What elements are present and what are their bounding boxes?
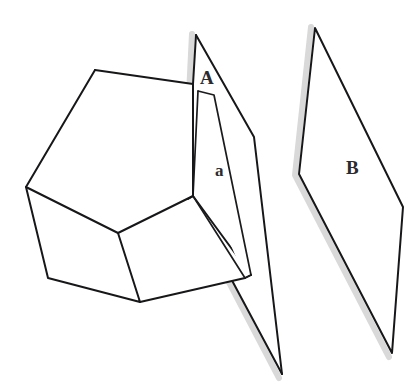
parallel-plane-b[interactable] xyxy=(299,28,403,353)
figure-canvas xyxy=(0,0,415,392)
label-plane-a: A xyxy=(200,68,214,87)
geometry-figure: A a B xyxy=(0,0,415,392)
plane-b-fill xyxy=(299,28,403,353)
label-cross-section-a: a xyxy=(215,162,224,179)
label-plane-b: B xyxy=(346,158,359,177)
